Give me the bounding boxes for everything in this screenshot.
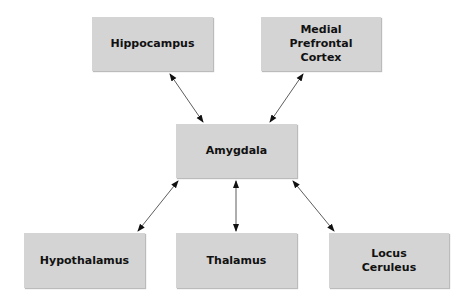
node-thalamus: Thalamus [176,233,297,288]
arrow-amygdala-mpfc [270,74,303,122]
arrow-amygdala-hypothalamus [138,181,178,231]
diagram-canvas: Hippocampus Medial Prefrontal Cortex Amy… [0,0,466,301]
node-hypothalamus: Hypothalamus [24,233,145,288]
node-locus-ceruleus: Locus Ceruleus [329,233,449,288]
arrow-amygdala-hippocampus [170,74,203,122]
node-hippocampus: Hippocampus [92,17,213,71]
node-amygdala: Amygdala [176,124,297,178]
node-medial-prefrontal-cortex: Medial Prefrontal Cortex [261,17,381,71]
arrow-amygdala-locus [293,181,334,231]
